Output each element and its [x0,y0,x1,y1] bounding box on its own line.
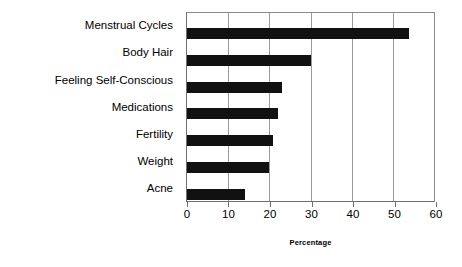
x-axis-tick-labels: 0102030405060 [186,208,435,224]
bar [187,28,409,39]
tick-label: 10 [222,208,235,220]
tick-label: 50 [388,208,401,220]
bar [187,135,273,146]
tick-mark [312,202,313,207]
bar [187,108,278,119]
plot-area [186,12,435,202]
horizontal-bar-chart: Menstrual Cycles Body Hair Feeling Self-… [0,0,462,267]
category-label: Menstrual Cycles [0,12,180,39]
bar [187,162,269,173]
bar-row [187,13,434,40]
tick-label: 20 [264,208,277,220]
bar-row [187,40,434,67]
tick-label: 40 [347,208,360,220]
tick-mark [353,202,354,207]
category-label: Body Hair [0,39,180,66]
category-label: Medications [0,93,180,120]
category-label: Feeling Self-Conscious [0,66,180,93]
tick-mark [395,202,396,207]
bar [187,55,311,66]
tick-mark [270,202,271,207]
tick-mark [436,202,437,207]
bar-row [187,174,434,201]
tick-label: 60 [430,208,443,220]
bar-row [187,147,434,174]
bar [187,82,282,93]
category-label: Acne [0,175,180,202]
tick-label: 0 [184,208,190,220]
category-axis: Menstrual Cycles Body Hair Feeling Self-… [0,12,180,202]
tick-mark [228,202,229,207]
bar [187,189,245,200]
tick-label: 30 [305,208,318,220]
bar-row [187,67,434,94]
tick-mark [187,202,188,207]
bar-row [187,94,434,121]
bars-layer [187,13,434,201]
category-label: Weight [0,148,180,175]
category-label: Fertility [0,121,180,148]
x-axis-title: Percentage [186,238,435,247]
bar-row [187,120,434,147]
